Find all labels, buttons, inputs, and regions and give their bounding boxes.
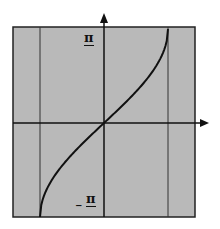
y-label-bottom: _ π — [78, 192, 96, 207]
plot-area — [0, 0, 220, 229]
x-axis-arrow-icon — [200, 119, 209, 127]
y-label-top: π — [84, 31, 94, 46]
y-axis-arrow-icon — [100, 13, 108, 23]
